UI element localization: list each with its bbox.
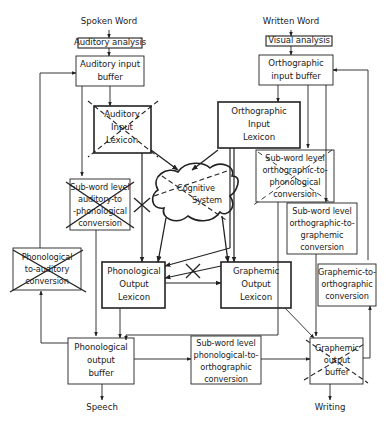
subword-phonological-to-orthographic-label: Sub-word levelphonological-to-orthograph… bbox=[194, 337, 259, 385]
spoken-word-label: Spoken Word bbox=[81, 16, 137, 26]
auditory-input-buffer-label: Auditory inputbuffer bbox=[80, 58, 140, 84]
phonological-output-buffer-label: Phonologicaloutputbuffer bbox=[74, 341, 127, 380]
phonological-to-auditory-label: Phonologicalto-auditoryconversion bbox=[22, 251, 73, 287]
written-word-label: Written Word bbox=[263, 16, 319, 26]
auditory-analysis-label: Auditory analysis bbox=[74, 36, 146, 49]
auditory-input-lexicon-label: AuditoryInputLexicon bbox=[104, 108, 140, 147]
graphemic-output-lexicon-label: GraphemicOutputLexicon bbox=[233, 265, 279, 304]
cognitive-system-label: CognitiveSystem bbox=[170, 182, 222, 206]
phonological-output-lexicon-label: PhonologicalOutputLexicon bbox=[107, 265, 160, 304]
subword-orthographic-to-phonological-label: Sub-word levelorthographic-to-phonologic… bbox=[262, 152, 327, 200]
graphemic-to-orthographic-label: Graphemic-to-orthographicconversion bbox=[318, 266, 376, 302]
visual-analysis-label: Visual analysis bbox=[268, 34, 330, 47]
graphemic-output-buffer-label: Graphemicoutputbuffer bbox=[315, 342, 359, 378]
subword-auditory-to-phonological-label: Sub-word levelauditory-to-phonologicalco… bbox=[70, 181, 129, 229]
speech-label: Speech bbox=[86, 402, 118, 412]
orthographic-input-lexicon-label: OrthographicInputLexicon bbox=[231, 105, 286, 144]
writing-label: Writing bbox=[315, 402, 346, 412]
subword-orthographic-to-graphemic-label: Sub-word levelorthographic-to-graphemicc… bbox=[289, 205, 354, 253]
orthographic-input-buffer-label: Orthographicinput buffer bbox=[268, 57, 323, 83]
